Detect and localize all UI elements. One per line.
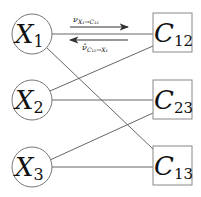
variable-node-x3: X3 [12,147,52,187]
edge-x1-c13 [47,48,153,149]
factor-graph: νX₁→C₁₂ ν̂C₁₂→X₁ X1 X2 X3 C12 C23 C13 [0,0,201,197]
variable-node-x2: X2 [12,80,52,120]
factor-node-c13: C13 [153,146,193,185]
edge-x3-c23 [50,113,153,160]
edges [47,34,153,167]
factor-node-c12: C12 [153,13,193,52]
variable-node-x1: X1 [12,14,52,54]
factor-node-c23: C23 [153,80,193,119]
message-label-backward: ν̂C₁₂→X₁ [82,43,108,53]
message-label-forward: νX₁→C₁₂ [73,15,100,25]
